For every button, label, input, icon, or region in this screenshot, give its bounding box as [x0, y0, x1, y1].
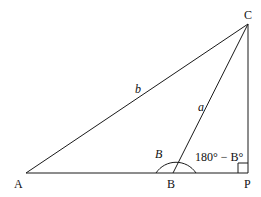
diagram-svg: A B C P b a B 180° − B° [0, 0, 261, 197]
vertex-label-c: C [244, 8, 252, 22]
angle-label-exterior: 180° − B° [195, 150, 244, 164]
side-label-b: b [135, 82, 141, 96]
right-angle-marker [238, 163, 248, 173]
angle-label-b: B [155, 147, 163, 161]
vertex-label-p: P [244, 177, 251, 191]
vertex-label-a: A [14, 177, 23, 191]
triangle-diagram: A B C P b a B 180° − B° [0, 0, 261, 197]
vertex-label-b: B [167, 177, 175, 191]
side-label-a: a [198, 100, 204, 114]
